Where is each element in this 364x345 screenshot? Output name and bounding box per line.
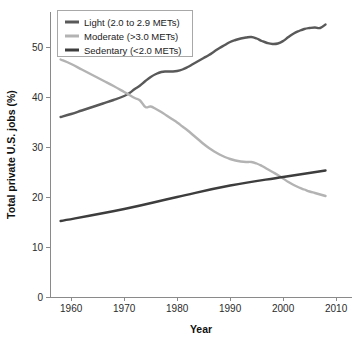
- series-line-2: [61, 171, 326, 222]
- line-chart: 01020304050 196019701980199020002010 Yea…: [0, 0, 364, 345]
- x-tick-label: 2000: [272, 303, 295, 314]
- x-axis-title: Year: [190, 323, 212, 335]
- y-axis-ticks: 01020304050: [32, 42, 50, 303]
- x-tick-label: 1960: [60, 303, 83, 314]
- y-tick-label: 40: [32, 92, 44, 103]
- legend-label-1: Moderate (>3.0 METs): [84, 31, 178, 42]
- y-axis-title: Total private U.S. jobs (%): [5, 90, 17, 219]
- y-tick-label: 10: [32, 242, 44, 253]
- chart-container: 01020304050 196019701980199020002010 Yea…: [0, 0, 364, 345]
- y-tick-label: 20: [32, 192, 44, 203]
- chart-legend: Light (2.0 to 2.9 METs)Moderate (>3.0 ME…: [57, 10, 192, 56]
- x-tick-label: 1980: [166, 303, 189, 314]
- x-tick-label: 1970: [113, 303, 136, 314]
- y-tick-label: 50: [32, 42, 44, 53]
- legend-label-2: Sedentary (<2.0 METs): [84, 45, 181, 56]
- x-tick-label: 2010: [325, 303, 348, 314]
- y-tick-label: 30: [32, 142, 44, 153]
- x-axis-ticks: 196019701980199020002010: [60, 297, 348, 314]
- x-tick-label: 1990: [219, 303, 242, 314]
- y-tick-label: 0: [37, 292, 43, 303]
- legend-label-0: Light (2.0 to 2.9 METs): [84, 17, 180, 28]
